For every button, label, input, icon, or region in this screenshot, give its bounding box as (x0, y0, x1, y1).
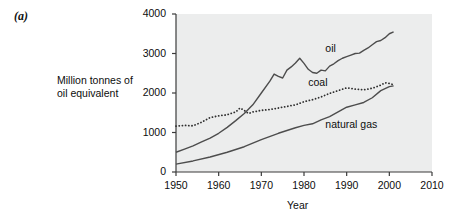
series-label-oil: oil (325, 42, 336, 54)
y-tick-label: 4000 (126, 7, 166, 19)
y-tick-label: 1000 (126, 126, 166, 138)
x-tick-label: 2010 (412, 179, 452, 191)
series-label-natural-gas: natural gas (325, 118, 377, 130)
x-tick-label: 2000 (369, 179, 409, 191)
x-tick-label: 1980 (284, 179, 324, 191)
x-tick-label: 1960 (199, 179, 239, 191)
x-tick-label: 1990 (327, 179, 367, 191)
y-tick-label: 2000 (126, 86, 166, 98)
y-tick-label: 3000 (126, 47, 166, 59)
x-tick-label: 1950 (156, 179, 196, 191)
figure-panel: (a) Million tonnes of oil equivalent 010… (0, 0, 452, 223)
x-tick-label: 1970 (241, 179, 281, 191)
x-axis-title: Year (287, 199, 308, 211)
y-tick-label: 0 (126, 165, 166, 177)
x-axis-ticks (176, 172, 432, 176)
series-label-coal: coal (308, 76, 327, 88)
plot-background (176, 14, 432, 172)
